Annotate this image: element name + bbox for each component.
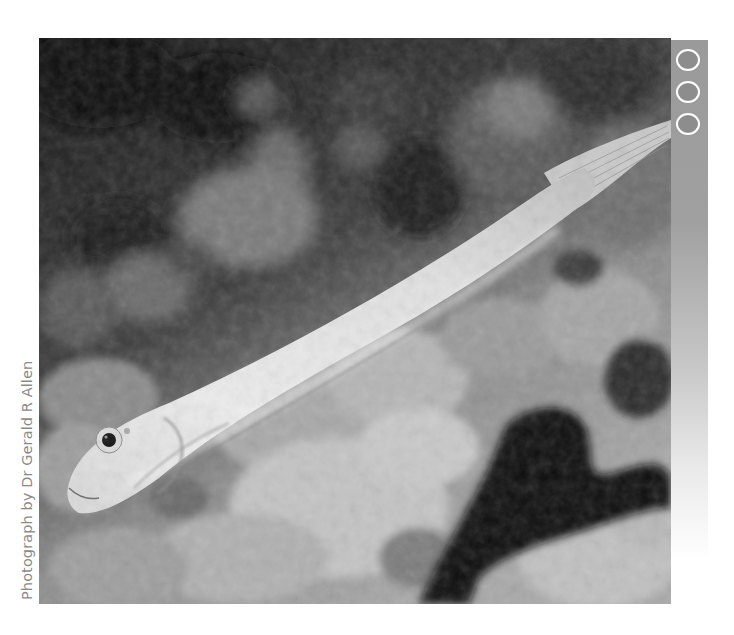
fish-photograph: [39, 38, 671, 604]
photo-credit: Photograph by Dr Gerald R Allen: [19, 361, 35, 600]
circle-icon: [676, 49, 700, 71]
circle-icon: [676, 113, 700, 135]
circle-icon: [676, 81, 700, 103]
side-decoration-bar: [671, 40, 708, 560]
photo-illustration: [39, 38, 671, 604]
page: Photograph by Dr Gerald R Allen: [0, 0, 734, 635]
